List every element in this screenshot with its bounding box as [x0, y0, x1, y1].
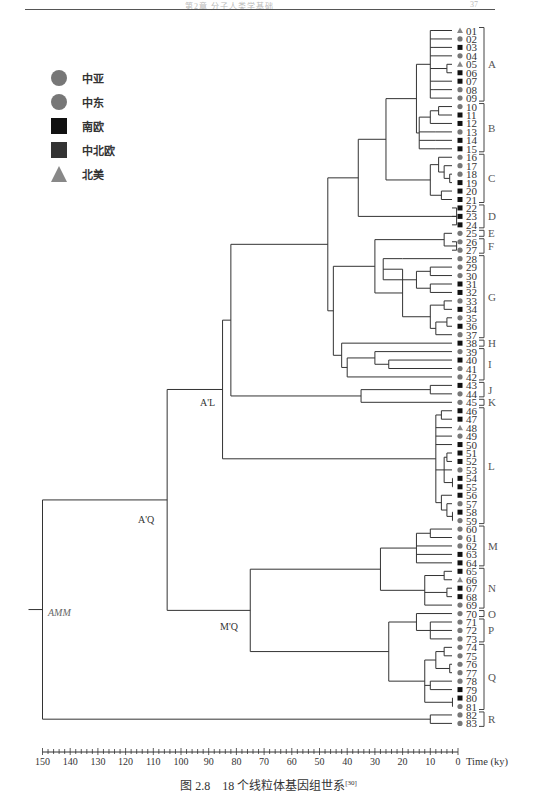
circle-icon	[457, 239, 462, 244]
square-icon	[458, 79, 463, 84]
circle-icon	[457, 662, 462, 667]
circle-icon	[457, 653, 462, 658]
circle-icon	[457, 155, 462, 160]
node-label-al: A'L	[200, 397, 215, 408]
circle-icon	[457, 518, 462, 523]
circle-icon	[457, 670, 462, 675]
circle-icon	[457, 315, 462, 320]
lineage-label-N: N	[488, 582, 496, 594]
circle-icon	[457, 704, 462, 709]
square-icon	[458, 493, 463, 498]
square-icon	[458, 205, 463, 210]
circle-icon	[457, 712, 462, 717]
square-icon	[458, 222, 463, 227]
circle-icon	[457, 467, 462, 472]
square-icon	[458, 586, 463, 591]
square-icon	[458, 687, 463, 692]
circle-icon	[457, 256, 462, 261]
square-icon	[458, 417, 463, 422]
axis-tick-label: 50	[315, 756, 325, 767]
triangle-icon	[457, 28, 463, 34]
square-icon	[458, 484, 463, 489]
lineage-label-Q: Q	[488, 671, 496, 683]
circle-icon	[457, 501, 462, 506]
square-icon	[458, 45, 463, 50]
square-icon	[458, 341, 463, 346]
axis-tick-label: 0	[456, 756, 461, 767]
circle-icon	[457, 273, 462, 278]
lineage-label-E: E	[488, 227, 495, 239]
axis-tick-label: 110	[146, 756, 161, 767]
lineage-label-R: R	[488, 713, 496, 725]
square-icon	[458, 197, 463, 202]
lineage-label-K: K	[488, 396, 496, 408]
lineage-label-H: H	[488, 337, 496, 349]
square-icon	[458, 594, 463, 599]
circle-icon	[457, 53, 462, 58]
circle-icon	[457, 391, 462, 396]
triangle-icon	[457, 425, 463, 431]
axis-label: Time (ky)	[466, 756, 508, 768]
lineage-label-L: L	[488, 460, 495, 472]
circle-icon	[457, 96, 462, 101]
circle-icon	[457, 400, 462, 405]
lineage-label-M: M	[488, 540, 498, 552]
lineage-label-J: J	[488, 384, 493, 396]
circle-icon	[457, 248, 462, 253]
axis-tick-label: 150	[35, 756, 50, 767]
axis-tick-label: 130	[90, 756, 105, 767]
lineage-label-P: P	[488, 624, 494, 636]
square-icon	[458, 552, 463, 557]
axis-tick-label: 10	[425, 756, 435, 767]
circle-icon	[457, 298, 462, 303]
circle-icon	[457, 163, 462, 168]
lineage-label-A: A	[488, 58, 496, 70]
square-icon	[458, 290, 463, 295]
circle-icon	[457, 628, 462, 633]
square-icon	[458, 307, 463, 312]
square-icon	[458, 324, 463, 329]
square-icon	[458, 383, 463, 388]
circle-icon	[457, 104, 462, 109]
lineage-label-B: B	[488, 122, 495, 134]
node-label-mq: M'Q	[220, 621, 239, 632]
node-label-amm: AMM	[47, 607, 71, 618]
square-icon	[458, 408, 463, 413]
lineage-label-G: G	[488, 291, 496, 303]
axis-tick-label: 20	[398, 756, 408, 767]
circle-icon	[457, 645, 462, 650]
circle-icon	[457, 535, 462, 540]
square-icon	[458, 510, 463, 515]
circle-icon	[457, 526, 462, 531]
square-icon	[458, 113, 463, 118]
square-icon	[458, 358, 463, 363]
circle-icon	[457, 366, 462, 371]
lineage-label-F: F	[488, 240, 494, 252]
node-label-aq: A'Q	[138, 514, 155, 525]
square-icon	[458, 560, 463, 565]
square-icon	[458, 189, 463, 194]
phylogenetic-tree: 0102030405060708091011121314151617181920…	[0, 0, 537, 770]
axis-tick-label: 140	[63, 756, 78, 767]
axis-tick-label: 30	[370, 756, 380, 767]
circle-icon	[457, 87, 462, 92]
triangle-icon	[457, 577, 463, 583]
square-icon	[458, 459, 463, 464]
square-icon	[458, 696, 463, 701]
square-icon	[458, 138, 463, 143]
square-icon	[458, 70, 463, 75]
axis-tick-label: 90	[204, 756, 214, 767]
circle-icon	[457, 172, 462, 177]
circle-icon	[457, 721, 462, 726]
axis-tick-label: 70	[259, 756, 269, 767]
lineage-label-I: I	[488, 358, 492, 370]
circle-icon	[457, 619, 462, 624]
circle-icon	[457, 265, 462, 270]
tip-label: 83	[466, 717, 478, 729]
circle-icon	[457, 636, 462, 641]
square-icon	[458, 121, 463, 126]
square-icon	[458, 451, 463, 456]
circle-icon	[457, 434, 462, 439]
square-icon	[458, 214, 463, 219]
square-icon	[458, 146, 463, 151]
